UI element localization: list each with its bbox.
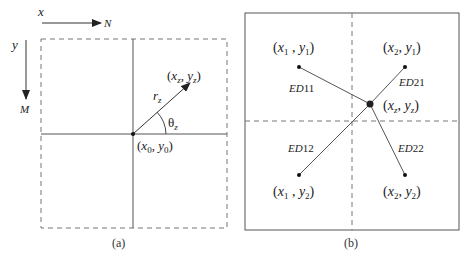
panel-a-caption: (a): [112, 236, 125, 250]
ed11-label: ED11: [288, 82, 314, 94]
y-arrow-label-m: M: [19, 103, 30, 115]
center-point-label: (xz, yz): [383, 98, 419, 115]
point-dot-x1-y1: [297, 65, 301, 69]
point-z-label: (xz, yz): [167, 68, 201, 85]
y-direction-arrow: y M: [10, 37, 30, 115]
angle-label: θz: [168, 115, 178, 132]
line-ed22: [370, 104, 405, 175]
ed21-label: ED21: [398, 76, 425, 88]
x-axis-label: x: [37, 4, 44, 19]
point-label-x2-y1: (x2, y1): [383, 40, 421, 57]
point-label-x1-y2: (x1 , y2): [273, 184, 315, 201]
panel-a: x N y M (xz, yz) rz θz: [10, 4, 227, 250]
ed12-label: ED12: [287, 142, 314, 154]
angle-arc: [157, 112, 166, 134]
center-point-dot: [367, 101, 374, 108]
y-axis-label: y: [10, 37, 18, 52]
point-label-x2-y2: (x2, y2): [383, 184, 421, 201]
point-dot-x2-y1: [403, 65, 407, 69]
line-ed12: [299, 104, 370, 175]
figure-canvas: x N y M (xz, yz) rz θz: [0, 0, 464, 260]
panel-b-caption: (b): [344, 236, 358, 250]
radius-vector-arrow: [133, 83, 190, 134]
point-dot-x2-y2: [403, 173, 407, 177]
panel-b: (x1 , y1) (x2, y1) (x1 , y2) (x2, y2) (x…: [245, 13, 459, 250]
x-arrow-label-n: N: [103, 17, 112, 29]
x-direction-arrow: x N: [37, 4, 112, 29]
ed22-label: ED22: [397, 142, 424, 154]
point-label-x1-y1: (x1 , y1): [273, 40, 315, 57]
radius-label: rz: [153, 88, 162, 105]
origin-label: (x0, y0): [137, 138, 173, 155]
point-dot-x1-y2: [297, 173, 301, 177]
origin-dot: [131, 132, 135, 136]
